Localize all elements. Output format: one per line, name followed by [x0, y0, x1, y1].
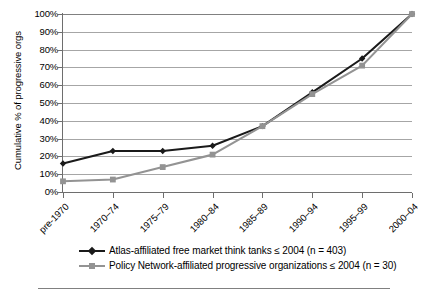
- y-axis-tick-mark: [57, 156, 63, 157]
- chart-legend: Atlas-affiliated free market think tanks…: [0, 243, 428, 273]
- legend-marker: [89, 263, 95, 269]
- chart-plot-area: Cumulative % of progressive orgs 100%90%…: [0, 0, 428, 240]
- x-axis-tick-mark: [262, 193, 263, 198]
- bottom-divider: [38, 288, 390, 289]
- y-axis-tick-mark: [57, 14, 63, 15]
- y-axis-tick-mark: [57, 139, 63, 140]
- x-axis-tick-labels: pre-19701970–741975–791980–841985–891990…: [0, 0, 428, 240]
- y-axis-tick-mark: [57, 32, 63, 33]
- x-axis-tick-mark: [312, 193, 313, 198]
- y-axis-tick-mark: [57, 174, 63, 175]
- x-axis-tick-mark: [113, 193, 114, 198]
- y-axis-tick-mark: [57, 50, 63, 51]
- y-axis-tick-mark: [57, 121, 63, 122]
- legend-swatch-square-icon: [79, 260, 105, 271]
- x-axis-tick-mark: [213, 193, 214, 198]
- legend-item[interactable]: Atlas-affiliated free market think tanks…: [0, 243, 428, 258]
- y-axis-tick-mark: [57, 103, 63, 104]
- legend-label: Atlas-affiliated free market think tanks…: [105, 245, 346, 256]
- chart-figure: Cumulative % of progressive orgs 100%90%…: [0, 0, 428, 296]
- x-axis-tick-mark: [163, 193, 164, 198]
- y-axis-tick-mark: [57, 85, 63, 86]
- legend-marker: [88, 247, 96, 255]
- x-axis-tick-mark: [412, 193, 413, 198]
- legend-label: Policy Network-affiliated progressive or…: [105, 260, 396, 271]
- x-axis-tick-mark: [362, 193, 363, 198]
- legend-item[interactable]: Policy Network-affiliated progressive or…: [0, 258, 428, 273]
- y-axis-tick-mark: [57, 67, 63, 68]
- legend-swatch-diamond-icon: [79, 245, 105, 256]
- x-axis-tick-mark: [63, 193, 64, 198]
